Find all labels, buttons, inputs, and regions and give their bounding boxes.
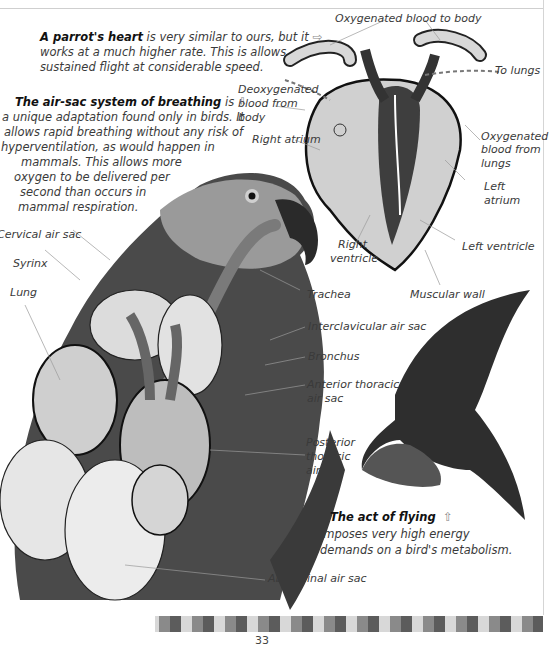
label-oxygenated-from-lungs-2: blood from xyxy=(481,143,541,157)
label-oxygenated-blood-to-body: Oxygenated blood to body xyxy=(335,12,481,26)
heart-intro-line3: sustained flight at considerable speed. xyxy=(40,60,265,75)
up-arrow-icon: ⇧ xyxy=(443,510,453,524)
strip-segment xyxy=(478,616,485,632)
airsac-intro-heading: The air-sac system of breathing xyxy=(15,95,221,109)
label-anterior-thoracic-2: air sac xyxy=(307,392,343,406)
strip-segment xyxy=(467,616,478,632)
right-arrow-icon: ⇨ xyxy=(312,30,322,44)
label-posterior-thoracic-3: air sac xyxy=(306,464,342,478)
airsac-intro-line4: hyperventilation, as would happen in xyxy=(1,140,215,155)
strip-segment xyxy=(357,616,368,632)
strip-segment xyxy=(423,616,434,632)
flying-intro-line1: The act of flying ⇧ xyxy=(330,510,453,525)
label-right-atrium: Right atrium xyxy=(252,133,321,147)
label-left-atrium-2: atrium xyxy=(484,194,520,208)
strip-segment xyxy=(181,616,188,632)
label-muscular-wall: Muscular wall xyxy=(410,288,485,302)
label-oxygenated-from-lungs-1: Oxygenated xyxy=(481,130,548,144)
label-deoxygenated-3: body xyxy=(238,111,265,125)
heart-intro-text: is very similar to ours, but it xyxy=(143,30,309,44)
airsac-intro-line8: mammal respiration. xyxy=(18,200,138,215)
label-abdominal-air-sac: Abdominal air sac xyxy=(268,572,367,586)
heart-intro-heading: A parrot's heart xyxy=(40,30,143,44)
strip-segment xyxy=(214,616,221,632)
heart-intro-line1: A parrot's heart is very similar to ours… xyxy=(40,30,265,45)
strip-segment xyxy=(390,616,401,632)
label-deoxygenated-1: Deoxygenated xyxy=(238,83,319,97)
strip-segment xyxy=(269,616,280,632)
label-cervical-air-sac: Cervical air sac xyxy=(0,228,81,242)
strip-segment xyxy=(500,616,511,632)
label-right-ventricle-2: ventricle xyxy=(330,252,378,266)
airsac-intro-line5: mammals. This allows more xyxy=(21,155,182,170)
airsac-intro-line6: oxygen to be delivered per xyxy=(14,170,170,185)
strip-segment xyxy=(170,616,181,632)
strip-segment xyxy=(236,616,247,632)
strip-segment xyxy=(258,616,269,632)
label-bronchus: Bronchus xyxy=(308,350,360,364)
strip-segment xyxy=(192,616,203,632)
strip-segment xyxy=(159,616,170,632)
label-posterior-thoracic-2: thoracic xyxy=(306,450,350,464)
strip-segment xyxy=(302,616,313,632)
flying-intro-line2: imposes very high energy xyxy=(320,527,470,542)
airsac-intro-line2: a unique adaptation found only in birds.… xyxy=(2,110,244,125)
heart-intro: A parrot's heart is very similar to ours… xyxy=(40,30,265,75)
label-deoxygenated-2: blood from xyxy=(238,97,298,111)
strip-segment xyxy=(247,616,254,632)
airsac-intro-text: is xyxy=(221,95,234,109)
strip-segment xyxy=(280,616,287,632)
strip-segment xyxy=(203,616,214,632)
strip-segment xyxy=(379,616,386,632)
flying-intro-heading: The act of flying xyxy=(330,510,436,524)
heart-intro-line2: works at a much higher rate. This is all… xyxy=(40,45,265,60)
strip-segment xyxy=(324,616,335,632)
label-left-ventricle: Left ventricle xyxy=(462,240,535,254)
label-syrinx: Syrinx xyxy=(13,257,48,271)
strip-segment xyxy=(489,616,500,632)
label-right-ventricle-1: Right xyxy=(338,238,367,252)
airsac-intro-line1: The air-sac system of breathing is ⇩ xyxy=(15,95,248,110)
strip-segment xyxy=(335,616,346,632)
strip-segment xyxy=(533,616,543,632)
label-trachea: Trachea xyxy=(307,288,351,302)
strip-segment xyxy=(225,616,236,632)
label-oxygenated-from-lungs-3: lungs xyxy=(481,157,511,171)
airsac-intro-line3: allows rapid breathing without any risk … xyxy=(4,125,243,140)
strip-segment xyxy=(511,616,518,632)
strip-segment xyxy=(401,616,412,632)
strip-segment xyxy=(522,616,533,632)
strip-segment xyxy=(313,616,320,632)
strip-segment xyxy=(456,616,467,632)
strip-segment xyxy=(412,616,419,632)
label-left-atrium-1: Left xyxy=(484,180,505,194)
airsac-intro-line7: second than occurs in xyxy=(20,185,146,200)
page-number: 33 xyxy=(255,634,269,647)
strip-segment xyxy=(346,616,353,632)
label-to-lungs: To lungs xyxy=(495,64,540,78)
label-posterior-thoracic-1: Posterior xyxy=(306,436,355,450)
strip-segment xyxy=(368,616,379,632)
label-lung: Lung xyxy=(10,286,37,300)
strip-segment xyxy=(434,616,445,632)
label-interclavicular-air-sac: Interclavicular air sac xyxy=(308,320,426,334)
strip-segment xyxy=(445,616,452,632)
flying-intro-line3: demands on a bird's metabolism. xyxy=(320,543,512,558)
decorative-checker-strip xyxy=(155,616,543,632)
strip-segment xyxy=(291,616,302,632)
label-anterior-thoracic-1: Anterior thoracic xyxy=(307,378,399,392)
